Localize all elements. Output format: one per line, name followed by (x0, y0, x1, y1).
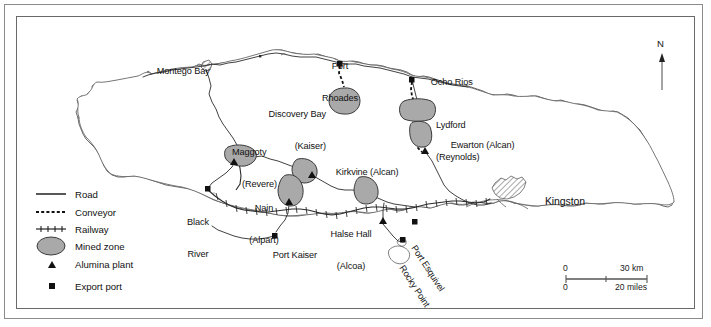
legend-label-mined-zone: Mined zone (75, 241, 125, 252)
label-port-kaiser: Port Kaiser (258, 239, 317, 271)
label-line: Ocho Rios (431, 77, 473, 87)
mined-zone-lydford (400, 99, 436, 122)
export-port-port-esquivel (412, 219, 418, 225)
legend-symbol-railway (36, 226, 66, 232)
scale-km-zero: 0 (563, 263, 568, 273)
label-kingston: Kingston (528, 185, 585, 217)
label-line: Maggoty (232, 147, 277, 158)
label-black-river: Black River (178, 196, 218, 281)
legend-label-export-port: Export port (75, 281, 122, 292)
scale-miles-max: 20 miles (615, 282, 647, 292)
north-arrow (659, 53, 665, 90)
legend-symbol-mined-zone (37, 237, 65, 255)
legend-label-conveyor: Conveyor (75, 207, 116, 218)
north-arrow-label: N (657, 38, 664, 49)
label-line: Montego Bay (157, 66, 210, 76)
label-line: Ewarton (Alcan) (451, 140, 515, 150)
north-letter: N (657, 38, 664, 49)
label-halse-hall: Halse Hall (Alcoa) (322, 208, 380, 293)
label-line: Nain (240, 203, 288, 214)
map-figure: Montego Bay Port Rhoades Ocho Rios Disco… (0, 0, 711, 327)
label-line: Discovery Bay (249, 109, 326, 120)
legend-label-railway: Railway (75, 224, 109, 235)
export-port-black-river (205, 186, 211, 192)
label-line: Black (178, 217, 218, 228)
scale-miles-zero: 0 (563, 282, 568, 292)
legend-label-alumina-plant: Alumina plant (75, 259, 133, 270)
export-port-ocho-rios (409, 77, 415, 83)
label-line: Halse Hall (322, 229, 380, 240)
label-line: Port (318, 61, 362, 72)
label-ocho-rios: Ocho Rios (416, 66, 473, 98)
label-ewarton: Ewarton (Alcan) (436, 129, 515, 161)
scale-km-max: 30 km (620, 263, 643, 273)
label-line: Port Kaiser (273, 250, 317, 260)
label-montego-bay: Montego Bay (142, 55, 210, 87)
label-line: Kingston (545, 195, 585, 207)
label-line: Kirkvine (Alcan) (336, 167, 399, 177)
mined-zone-ewarton (410, 121, 432, 147)
legend-symbol-alumina-plant (48, 261, 56, 268)
legend-label-road: Road (75, 189, 98, 200)
label-kirkvine: Kirkvine (Alcan) (321, 156, 398, 188)
legend-symbols (36, 194, 66, 289)
label-line: River (178, 249, 218, 260)
legend-symbol-export-port (49, 283, 55, 289)
label-line: (Alcoa) (322, 261, 380, 272)
alumina-plant-halse-hall (379, 217, 387, 224)
